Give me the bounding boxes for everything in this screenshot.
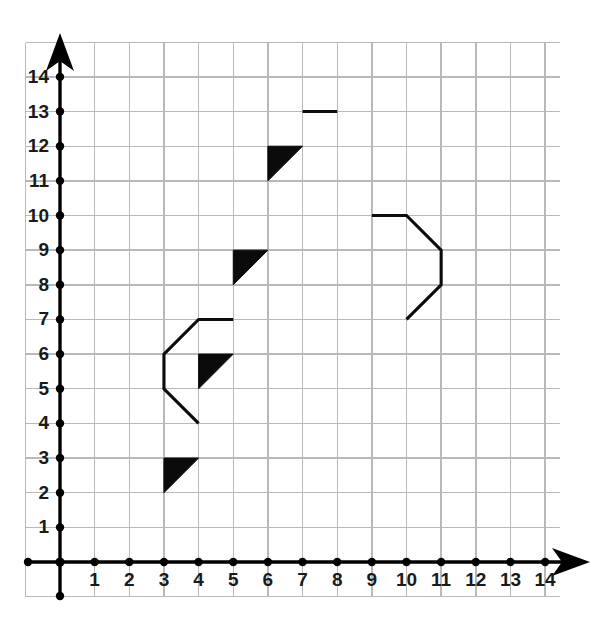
x-tick-label-13: 13 [500,569,521,590]
x-tick-dot-6 [264,558,272,566]
graph-stage: 12345678910111213141234567891011121314 [0,0,606,632]
y-tick-dot-14 [56,73,64,81]
x-tick-label-11: 11 [431,569,452,590]
x-tick-label-3: 3 [159,569,170,590]
y-tick-label-9: 9 [38,239,49,260]
y-tick-dot-12 [56,142,64,150]
x-tick-dot-9 [368,558,376,566]
y-tick-label-5: 5 [38,378,49,399]
y-tick-label-13: 13 [28,101,49,122]
x-tick-label-10: 10 [396,569,417,590]
x-tick-label-5: 5 [228,569,239,590]
y-tick-dot-4 [56,419,64,427]
y-tick-dot-6 [56,350,64,358]
y-tick-label-2: 2 [38,482,49,503]
filled-triangle-2 [233,250,268,285]
x-axis-left-endpoint-dot [24,558,32,566]
filled-triangle-3 [199,354,234,389]
x-tick-dot-1 [90,558,98,566]
x-tick-label-9: 9 [367,569,378,590]
y-tick-dot-7 [56,315,64,323]
x-tick-dot-10 [402,558,410,566]
x-tick-label-12: 12 [465,569,486,590]
x-tick-dot-5 [229,558,237,566]
y-tick-dot-2 [56,489,64,497]
y-tick-label-10: 10 [28,205,49,226]
y-tick-label-3: 3 [38,447,49,468]
y-tick-dot-10 [56,211,64,219]
y-tick-label-1: 1 [38,516,49,537]
tick-labels-layer: 12345678910111213141234567891011121314 [28,66,556,590]
y-tick-dot-3 [56,454,64,462]
y-tick-label-8: 8 [38,274,49,295]
x-tick-label-2: 2 [124,569,135,590]
y-tick-dot-11 [56,177,64,185]
axes-layer [24,33,590,600]
y-axis-bottom-endpoint-dot [56,592,64,600]
x-tick-label-8: 8 [332,569,343,590]
y-tick-dot-9 [56,246,64,254]
y-tick-label-6: 6 [38,343,49,364]
x-tick-dot-14 [541,558,549,566]
x-tick-dot-11 [437,558,445,566]
y-tick-label-7: 7 [38,308,49,329]
y-tick-label-14: 14 [28,66,50,87]
filled-triangle-4 [164,458,199,493]
x-tick-dot-12 [472,558,480,566]
y-tick-dot-13 [56,107,64,115]
filled-triangle-1 [268,146,303,181]
x-tick-label-1: 1 [89,569,100,590]
x-tick-dot-3 [160,558,168,566]
x-tick-dot-2 [125,558,133,566]
x-tick-dot-4 [194,558,202,566]
y-tick-label-12: 12 [28,135,49,156]
x-tick-dot-13 [506,558,514,566]
y-tick-label-4: 4 [38,412,49,433]
x-tick-label-4: 4 [193,569,204,590]
x-tick-dot-8 [333,558,341,566]
origin-dot [55,557,64,566]
grid-layer [25,42,560,597]
y-tick-label-11: 11 [29,170,50,191]
x-tick-label-14: 14 [535,569,557,590]
y-tick-dot-8 [56,281,64,289]
y-tick-dot-5 [56,385,64,393]
x-tick-label-7: 7 [297,569,308,590]
x-tick-dot-7 [298,558,306,566]
x-tick-label-6: 6 [263,569,274,590]
y-tick-dot-1 [56,523,64,531]
coordinate-plane: 12345678910111213141234567891011121314 [0,0,606,632]
